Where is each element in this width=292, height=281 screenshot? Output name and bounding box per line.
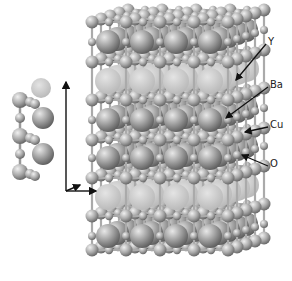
label-y: Y [268, 36, 274, 47]
label-ba: Ba [270, 79, 283, 90]
crystal-block [86, 4, 271, 257]
structure-svg [0, 0, 292, 281]
unit-cell-fragment [12, 78, 54, 181]
label-o: O [270, 158, 278, 169]
crystal-structure-diagram: Y Ba Cu O [0, 0, 292, 281]
label-cu: Cu [270, 119, 283, 130]
